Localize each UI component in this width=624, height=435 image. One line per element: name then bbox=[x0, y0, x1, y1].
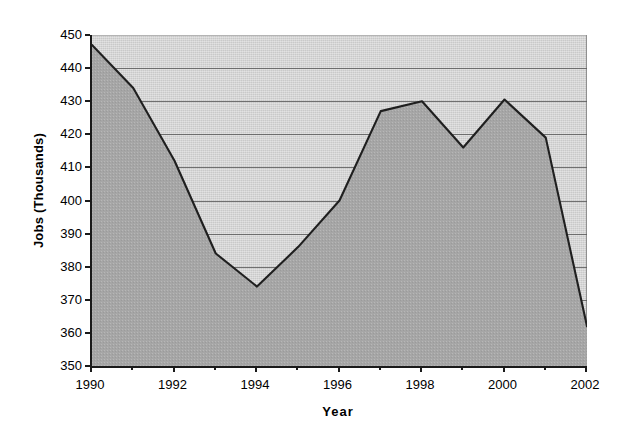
y-tick-label-370: 370 bbox=[40, 293, 82, 306]
y-tick-label-450: 450 bbox=[40, 28, 82, 41]
y-tick-label-360: 360 bbox=[40, 326, 82, 339]
y-tick-440 bbox=[85, 67, 90, 69]
y-tick-label-390: 390 bbox=[40, 227, 82, 240]
x-tick-1994 bbox=[255, 366, 257, 372]
y-tick-410 bbox=[85, 166, 90, 168]
y-tick-360 bbox=[85, 332, 90, 334]
y-tick-380 bbox=[85, 266, 90, 268]
x-tick-minor-1997 bbox=[379, 366, 381, 370]
area-chart: Jobs (Thousands) 45044043042041040039038… bbox=[0, 0, 624, 435]
x-tick-minor-1991 bbox=[131, 366, 133, 370]
y-tick-370 bbox=[85, 299, 90, 301]
x-tick-label-1994: 1994 bbox=[225, 378, 285, 391]
x-tick-label-2002: 2002 bbox=[555, 378, 615, 391]
y-tick-420 bbox=[85, 133, 90, 135]
x-tick-2002 bbox=[585, 366, 587, 372]
y-tick-label-400: 400 bbox=[40, 194, 82, 207]
y-tick-390 bbox=[85, 233, 90, 235]
x-tick-1996 bbox=[338, 366, 340, 372]
x-tick-minor-2001 bbox=[544, 366, 546, 370]
area-series-svg bbox=[92, 35, 587, 366]
plot-area bbox=[90, 35, 587, 368]
x-tick-label-1996: 1996 bbox=[308, 378, 368, 391]
y-tick-label-420: 420 bbox=[40, 127, 82, 140]
y-tick-400 bbox=[85, 200, 90, 202]
x-tick-minor-1995 bbox=[296, 366, 298, 370]
x-tick-minor-1999 bbox=[461, 366, 463, 370]
x-tick-minor-1993 bbox=[214, 366, 216, 370]
x-tick-label-1998: 1998 bbox=[390, 378, 450, 391]
x-axis-title: Year bbox=[90, 404, 586, 419]
y-tick-430 bbox=[85, 100, 90, 102]
x-tick-label-2000: 2000 bbox=[473, 378, 533, 391]
x-tick-label-1992: 1992 bbox=[143, 378, 203, 391]
x-tick-1998 bbox=[420, 366, 422, 372]
y-tick-label-350: 350 bbox=[40, 359, 82, 372]
x-tick-label-1990: 1990 bbox=[60, 378, 120, 391]
x-tick-2000 bbox=[503, 366, 505, 372]
x-tick-1992 bbox=[173, 366, 175, 372]
y-tick-label-430: 430 bbox=[40, 94, 82, 107]
area-fill-path bbox=[92, 45, 587, 366]
y-tick-450 bbox=[85, 34, 90, 36]
y-tick-label-380: 380 bbox=[40, 260, 82, 273]
x-tick-1990 bbox=[90, 366, 92, 372]
y-tick-label-410: 410 bbox=[40, 160, 82, 173]
y-tick-label-440: 440 bbox=[40, 61, 82, 74]
